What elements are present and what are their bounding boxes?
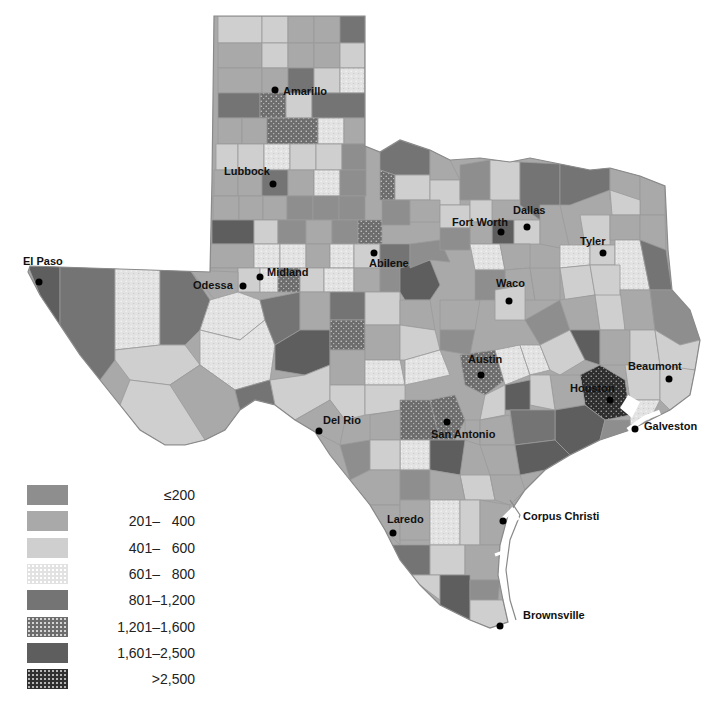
legend-item: ≤200 — [27, 482, 197, 508]
svg-text:Corpus Christi: Corpus Christi — [523, 510, 599, 522]
legend-label: 801–1,200 — [68, 592, 197, 608]
legend-swatch — [27, 538, 68, 558]
legend-item: 601– 800 — [27, 561, 197, 587]
legend-item: 201– 400 — [27, 508, 197, 534]
svg-text:Midland: Midland — [267, 266, 309, 278]
svg-text:Waco: Waco — [496, 277, 525, 289]
svg-text:Tyler: Tyler — [580, 235, 606, 247]
legend-item: >2,500 — [27, 666, 197, 692]
legend-label: 601– 800 — [68, 566, 197, 582]
legend-swatch — [27, 511, 68, 531]
legend-label: 1,601–2,500 — [68, 645, 197, 661]
legend-label: 201– 400 — [68, 513, 197, 529]
svg-text:Beaumont: Beaumont — [628, 360, 682, 372]
svg-text:El Paso: El Paso — [23, 255, 63, 267]
legend-swatch — [27, 617, 68, 637]
svg-text:Fort Worth: Fort Worth — [452, 216, 508, 228]
legend-item: 801–1,200 — [27, 587, 197, 613]
legend-label: 1,201–1,600 — [68, 619, 197, 635]
legend-swatch — [27, 590, 68, 610]
svg-text:Laredo: Laredo — [387, 513, 424, 525]
legend: ≤200 201– 400 401– 600 601– 800 801–1,20… — [27, 482, 197, 692]
svg-text:Austin: Austin — [468, 353, 503, 365]
svg-text:San Antonio: San Antonio — [431, 428, 496, 440]
legend-item: 1,201–1,600 — [27, 613, 197, 639]
legend-label: 401– 600 — [68, 540, 197, 556]
legend-swatch — [27, 669, 68, 689]
svg-text:Amarillo: Amarillo — [283, 85, 327, 97]
svg-text:Galveston: Galveston — [644, 420, 697, 432]
city-brownsville: Brownsville — [497, 609, 585, 630]
svg-text:Dallas: Dallas — [513, 204, 545, 216]
legend-swatch — [27, 485, 68, 505]
svg-text:Del Rio: Del Rio — [323, 414, 361, 426]
legend-label: >2,500 — [68, 671, 197, 687]
svg-text:Houston: Houston — [570, 382, 615, 394]
legend-swatch — [27, 564, 68, 584]
svg-text:Odessa: Odessa — [193, 279, 234, 291]
legend-item: 401– 600 — [27, 535, 197, 561]
svg-text:Brownsville: Brownsville — [523, 609, 585, 621]
svg-text:Lubbock: Lubbock — [224, 165, 271, 177]
legend-label: ≤200 — [68, 487, 197, 503]
legend-swatch — [27, 643, 68, 663]
svg-text:Abilene: Abilene — [369, 257, 409, 269]
legend-item: 1,601–2,500 — [27, 640, 197, 666]
